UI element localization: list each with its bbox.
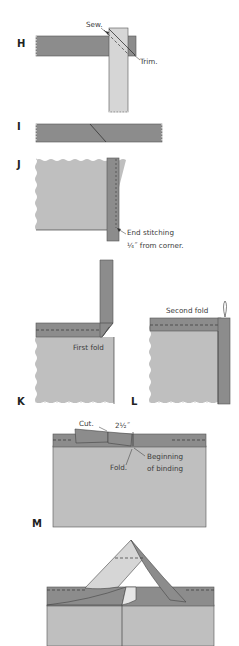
left-binding-tail xyxy=(85,540,143,589)
trim-note: Trim. xyxy=(139,57,158,66)
end-stitching-note-line2: ¼˝ from corner. xyxy=(127,241,184,250)
joined-binding-strip xyxy=(36,124,162,142)
vertical-binding-strip xyxy=(109,28,128,112)
step-l: L Second fold xyxy=(131,301,234,407)
horizontal-binding xyxy=(150,318,221,331)
cut-note: Cut. xyxy=(79,419,94,428)
vertical-binding xyxy=(218,318,230,404)
beginning-note-line1: Beginning xyxy=(147,452,183,461)
step-label-k: K xyxy=(17,396,26,407)
step-label-j: J xyxy=(16,159,21,170)
step-h: H Sew. Trim. xyxy=(17,20,158,112)
step-i: I xyxy=(17,121,162,142)
step-j: J End stitching ¼˝ from corner. xyxy=(16,158,184,250)
binding-tail-cut xyxy=(75,429,108,443)
step-label-l: L xyxy=(131,396,138,407)
first-fold-note: First fold xyxy=(73,343,104,352)
binding-diagram: H Sew. Trim. I J End stitching ¼˝ from c… xyxy=(0,0,239,646)
second-fold-note: Second fold xyxy=(166,306,208,315)
quilt-fabric xyxy=(47,605,214,646)
sew-note: Sew. xyxy=(86,20,103,29)
step-n-joining xyxy=(47,540,214,646)
step-k: K First fold xyxy=(17,260,114,407)
step-m: M Cut. 2½˝ Fold. Beginning of binding xyxy=(32,419,206,529)
step-label-h: H xyxy=(17,38,25,49)
fold-arrow-icon xyxy=(224,301,227,317)
beginning-note-line2: of binding xyxy=(147,464,183,473)
binding-strip xyxy=(107,158,119,241)
measure-note: 2½˝ xyxy=(115,421,131,430)
step-label-i: I xyxy=(17,121,21,132)
fold-note: Fold. xyxy=(110,463,127,472)
step-label-m: M xyxy=(32,518,42,529)
end-stitching-note-line1: End stitching xyxy=(127,228,174,237)
